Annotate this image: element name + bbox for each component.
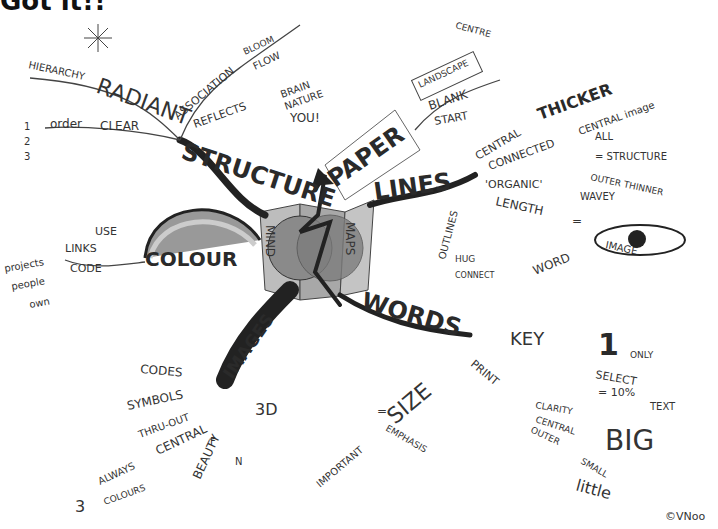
- svg-text:IMPORTANT: IMPORTANT: [314, 444, 366, 490]
- svg-text:START: START: [433, 109, 469, 128]
- branch-words: WORDS KEY 1 ONLY SELECT = 10% TEXT PRINT…: [314, 287, 676, 503]
- svg-text:LENGTH: LENGTH: [494, 194, 544, 218]
- svg-text:'ORGANIC': 'ORGANIC': [485, 178, 543, 191]
- svg-text:WORD: WORD: [531, 250, 572, 278]
- svg-text:3: 3: [24, 151, 30, 162]
- colour-label: COLOUR: [145, 247, 237, 271]
- svg-text:SYMBOLS: SYMBOLS: [126, 387, 185, 413]
- svg-text:CODES: CODES: [140, 362, 183, 380]
- svg-text:people: people: [10, 275, 45, 292]
- svg-text:CENTRE: CENTRE: [454, 20, 492, 39]
- svg-text:PRINT: PRINT: [468, 357, 501, 388]
- svg-text:own: own: [28, 296, 50, 310]
- svg-text:WAVEY: WAVEY: [580, 191, 616, 202]
- mind-label: MIND: [263, 225, 277, 257]
- svg-text:= STRUCTURE: = STRUCTURE: [595, 151, 667, 162]
- maps-label: MAPS: [343, 222, 357, 255]
- svg-text:OUTLINES: OUTLINES: [436, 209, 460, 260]
- svg-text:CLEAR: CLEAR: [100, 119, 139, 133]
- svg-text:CLARITY: CLARITY: [535, 400, 574, 416]
- svg-text:ONLY: ONLY: [630, 350, 654, 360]
- svg-text:little: little: [574, 476, 613, 504]
- svg-text:3D: 3D: [255, 400, 278, 419]
- svg-text:=: =: [572, 214, 582, 228]
- svg-text:TEXT: TEXT: [649, 401, 676, 412]
- svg-text:EMPHASIS: EMPHASIS: [384, 423, 429, 455]
- branch-images: IMAGES CODES SYMBOLS THRU-OUT CENTRAL AL…: [75, 290, 290, 516]
- svg-text:1: 1: [24, 121, 30, 132]
- svg-text:USE: USE: [95, 225, 117, 238]
- svg-text:ALWAYS: ALWAYS: [96, 460, 136, 487]
- words-label: WORDS: [358, 287, 464, 342]
- svg-text:LINKS: LINKS: [65, 242, 97, 255]
- svg-text:= 10%: = 10%: [598, 386, 635, 399]
- svg-text:N: N: [235, 456, 242, 467]
- svg-text:ALL: ALL: [595, 131, 613, 142]
- structure-label: STRUCTURE: [178, 137, 339, 213]
- images-label: IMAGES: [219, 310, 278, 382]
- svg-text:=: =: [377, 404, 387, 418]
- svg-text:COLOURS: COLOURS: [102, 482, 147, 506]
- svg-text:2: 2: [24, 136, 30, 147]
- svg-text:1: 1: [598, 327, 619, 362]
- branch-lines: LINES CENTRAL THICKER CONNECTED CENTRAL …: [370, 79, 685, 280]
- header-text: Got it!!: [0, 0, 106, 16]
- svg-text:YOU!: YOU!: [289, 111, 320, 125]
- svg-text:CONNECT: CONNECT: [455, 271, 494, 280]
- branch-structure: STRUCTURE RADIANT HIERARCHY order CLEAR …: [24, 24, 339, 215]
- svg-text:BIG: BIG: [605, 424, 654, 457]
- svg-text:order: order: [50, 117, 82, 131]
- signature: ©VNoo: [665, 510, 705, 523]
- svg-text:KEY: KEY: [510, 328, 545, 349]
- svg-text:projects: projects: [3, 256, 44, 274]
- svg-text:CODE: CODE: [70, 262, 102, 275]
- svg-text:3: 3: [75, 497, 85, 516]
- svg-text:SIZE: SIZE: [382, 378, 436, 429]
- svg-text:F: F: [210, 436, 216, 447]
- svg-text:FLOW: FLOW: [251, 50, 282, 72]
- svg-text:HUG: HUG: [455, 254, 475, 264]
- branch-colour: COLOUR USE LINKS CODE projects people ow…: [3, 210, 260, 310]
- mind-map-diagram: Got it!! MIND MAPS STRUCTURE RADIANT HIE…: [0, 0, 718, 529]
- mind-map-canvas: MIND MAPS STRUCTURE RADIANT HIERARCHY or…: [0, 0, 718, 529]
